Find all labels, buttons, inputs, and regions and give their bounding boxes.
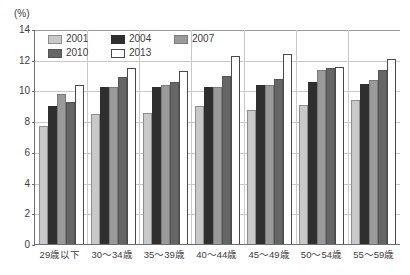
bar-group: [91, 30, 136, 244]
bar-2004: [100, 87, 109, 244]
bar-2004: [152, 87, 161, 244]
legend-item-2007[interactable]: 2007: [174, 34, 237, 44]
bar-2007: [317, 70, 326, 244]
bar-2001: [39, 126, 48, 244]
bar-2004: [308, 82, 317, 244]
x-axis-label: 55～59歳: [353, 250, 394, 260]
legend-label: 2013: [129, 48, 151, 58]
bar-2013: [283, 54, 292, 244]
bar-2010: [170, 82, 179, 244]
bar-2004: [48, 106, 57, 244]
bar-2001: [299, 105, 308, 244]
bar-2007: [369, 80, 378, 244]
bar-2007: [161, 85, 170, 244]
bar-2010: [118, 77, 127, 244]
bar-2001: [247, 110, 256, 245]
x-axis-label: 35～39歳: [144, 250, 185, 260]
bar-2010: [378, 70, 387, 244]
y-axis-tick-label: 12: [19, 56, 30, 66]
bar-group: [39, 30, 84, 244]
bar-2001: [143, 113, 152, 244]
y-axis-tick-label: 8: [24, 117, 30, 127]
legend-label: 2007: [192, 34, 214, 44]
bar-2007: [57, 94, 66, 244]
bar-2001: [91, 114, 100, 244]
legend-swatch-icon: [48, 49, 62, 58]
bar-2010: [222, 76, 231, 244]
x-axis-label: 40～44歳: [196, 250, 237, 260]
bar-group: [247, 30, 292, 244]
legend-item-2001[interactable]: 2001: [48, 34, 111, 44]
legend-item-2004[interactable]: 2004: [111, 34, 174, 44]
group-separator: [139, 30, 140, 244]
chart-legend: 20012004200720102013: [48, 34, 238, 58]
bar-chart: (%) 14121086420 29歳以下30～34歳35～39歳40～44歳4…: [0, 0, 410, 275]
bar-2001: [195, 106, 204, 244]
group-separator: [348, 30, 349, 244]
bar-2004: [256, 85, 265, 244]
y-axis-unit-label: (%): [14, 8, 30, 19]
legend-item-2010[interactable]: 2010: [48, 48, 111, 58]
group-separator: [87, 30, 88, 244]
y-axis-tick-label: 10: [19, 86, 30, 96]
y-axis-tick-label: 2: [24, 209, 30, 219]
x-axis-label: 45～49歳: [248, 250, 289, 260]
bar-2007: [265, 85, 274, 244]
bar-2004: [204, 87, 213, 244]
x-axis-labels: 29歳以下30～34歳35～39歳40～44歳45～49歳50～54歳55～59…: [34, 250, 400, 270]
bar-2010: [274, 79, 283, 244]
legend-label: 2001: [66, 34, 88, 44]
bar-2001: [351, 100, 360, 244]
y-axis-tick-label: 0: [24, 240, 30, 250]
bar-2004: [360, 84, 369, 245]
legend-item-2013[interactable]: 2013: [111, 48, 174, 58]
bar-2013: [335, 67, 344, 244]
legend-swatch-icon: [174, 35, 188, 44]
x-axis-label: 29歳以下: [40, 250, 81, 260]
bar-group: [195, 30, 240, 244]
bar-2007: [213, 87, 222, 244]
bar-2013: [387, 59, 396, 244]
group-separator: [296, 30, 297, 244]
bar-group: [299, 30, 344, 244]
y-axis-tick-label: 14: [19, 25, 30, 35]
bar-2013: [127, 68, 136, 244]
legend-label: 2010: [66, 48, 88, 58]
x-axis-label: 50～54歳: [301, 250, 342, 260]
x-axis-label: 30～34歳: [91, 250, 132, 260]
bar-group: [143, 30, 188, 244]
plot-area: 14121086420: [34, 30, 400, 245]
legend-swatch-icon: [111, 35, 125, 44]
legend-swatch-icon: [111, 49, 125, 58]
bar-2013: [75, 85, 84, 244]
y-axis-tick-label: 4: [24, 179, 30, 189]
bar-2010: [66, 102, 75, 244]
group-separator: [244, 30, 245, 244]
bar-2007: [109, 87, 118, 244]
legend-swatch-icon: [48, 35, 62, 44]
bar-2010: [326, 68, 335, 244]
y-axis-tick-mark: [32, 245, 35, 246]
legend-label: 2004: [129, 34, 151, 44]
bar-2013: [179, 71, 188, 244]
group-separator: [191, 30, 192, 244]
bar-2013: [231, 56, 240, 244]
bar-groups: [35, 30, 400, 244]
y-axis-tick-label: 6: [24, 148, 30, 158]
bar-group: [351, 30, 396, 244]
